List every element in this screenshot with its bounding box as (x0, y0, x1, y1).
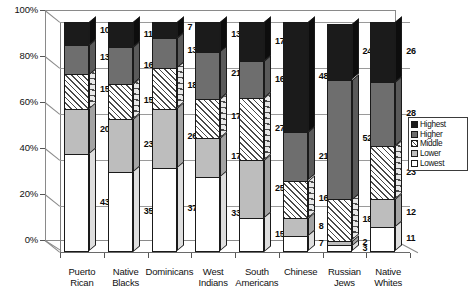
bar-column[interactable] (370, 22, 395, 252)
bar-segment-side (133, 113, 140, 172)
bar-segment-side (352, 193, 359, 240)
axis-depth-connector (45, 10, 61, 23)
bar-stack (195, 22, 220, 252)
bar-segment-side (220, 132, 227, 177)
bar-segment-middle[interactable] (239, 98, 264, 160)
x-axis-tick (366, 253, 367, 258)
bar-segment-middle[interactable] (327, 199, 352, 240)
x-axis-tick (235, 253, 236, 258)
y-axis-label: 20% (4, 188, 38, 199)
bar-column[interactable] (239, 22, 264, 252)
legend-item-highest[interactable]: Highest (411, 120, 465, 130)
bar-segment-lower[interactable] (195, 138, 220, 177)
bar-segment-middle[interactable] (64, 74, 89, 108)
bar-stack (152, 22, 177, 252)
bar-segment-lowest[interactable] (195, 177, 220, 252)
bar-segment-higher[interactable] (64, 45, 89, 75)
legend-item-label: Lowest (420, 159, 444, 168)
bar-segment-side (264, 92, 271, 160)
legend-item-label: Middle (420, 139, 442, 148)
chart-legend: HighestHigherMiddleLowerLowest (408, 117, 468, 171)
bar-segment-side (264, 211, 271, 251)
bar-column[interactable] (64, 22, 89, 252)
bar-segment-higher[interactable] (283, 132, 308, 180)
bar-segment-lowest[interactable] (327, 245, 352, 252)
bar-value-label: 26 (406, 46, 416, 56)
legend-swatch-icon (411, 150, 418, 157)
bar-segment-highest[interactable] (152, 22, 177, 38)
bar-segment-lowest[interactable] (108, 172, 133, 253)
bar-segment-side (220, 16, 227, 52)
y-axis-tick (40, 56, 45, 57)
bar-stack (283, 22, 308, 252)
bar-segment-side (352, 74, 359, 199)
bar-value-label: 12 (406, 207, 416, 217)
bar-segment-higher[interactable] (239, 61, 264, 98)
bar-stack (64, 22, 89, 252)
bar-segment-side (352, 18, 359, 79)
plot-frame-top-back (45, 10, 395, 11)
bar-segment-lowest[interactable] (370, 227, 395, 252)
bar-segment-highest[interactable] (64, 22, 89, 45)
bar-segment-higher[interactable] (195, 52, 220, 100)
x-axis-tick (323, 253, 324, 258)
bar-segment-side (89, 68, 96, 108)
bar-segment-lower[interactable] (108, 119, 133, 172)
bar-segment-side (308, 127, 315, 181)
bar-segment-side (264, 16, 271, 61)
bar-segment-highest[interactable] (327, 24, 352, 79)
bar-segment-highest[interactable] (195, 22, 220, 52)
bar-segment-highest[interactable] (108, 22, 133, 47)
y-axis-tick (40, 194, 45, 195)
bar-segment-higher[interactable] (370, 82, 395, 146)
bar-segment-lowest[interactable] (239, 218, 264, 253)
legend-item-lower[interactable]: Lower (411, 149, 465, 159)
bar-segment-side (264, 154, 271, 217)
bar-segment-lowest[interactable] (64, 154, 89, 252)
legend-swatch-icon (411, 121, 418, 128)
plot-frame-left-back (45, 10, 46, 240)
bar-column[interactable] (195, 22, 220, 252)
bar-segment-highest[interactable] (370, 22, 395, 82)
bar-segment-lower[interactable] (370, 199, 395, 227)
y-axis-label: 80% (4, 50, 38, 61)
y-axis-tick (40, 10, 45, 11)
y-axis-tick (40, 240, 45, 241)
bar-column[interactable] (152, 22, 177, 252)
bar-segment-lower[interactable] (327, 241, 352, 246)
bar-segment-side (177, 102, 184, 168)
bar-segment-higher[interactable] (108, 47, 133, 84)
y-axis-label: 100% (4, 4, 38, 15)
bar-column[interactable] (108, 22, 133, 252)
bar-stack (370, 22, 395, 252)
bar-segment-lowest[interactable] (152, 168, 177, 252)
legend-swatch-icon (411, 140, 418, 147)
bar-segment-middle[interactable] (195, 99, 220, 138)
legend-item-lowest[interactable]: Lowest (411, 158, 465, 168)
bar-segment-lower[interactable] (239, 160, 264, 218)
bar-segment-side (395, 16, 402, 82)
bar-segment-side (133, 41, 140, 84)
bar-column[interactable] (327, 22, 352, 252)
bar-segment-middle[interactable] (108, 84, 133, 119)
legend-item-label: Higher (420, 130, 442, 139)
bar-segment-middle[interactable] (152, 68, 177, 109)
bar-segment-lower[interactable] (283, 218, 308, 236)
legend-item-middle[interactable]: Middle (411, 139, 465, 149)
bar-segment-middle[interactable] (283, 181, 308, 218)
bar-segment-side (220, 93, 227, 138)
bar-segment-lower[interactable] (152, 109, 177, 168)
bar-segment-side (220, 45, 227, 99)
bar-column[interactable] (283, 22, 308, 252)
bar-segment-middle[interactable] (370, 146, 395, 199)
legend-item-higher[interactable]: Higher (411, 130, 465, 140)
bar-segment-lower[interactable] (64, 109, 89, 155)
bar-segment-lowest[interactable] (283, 236, 308, 252)
bar-segment-higher[interactable] (152, 38, 177, 68)
bar-segment-highest[interactable] (283, 22, 308, 132)
bar-segment-higher[interactable] (327, 80, 352, 200)
bar-segment-highest[interactable] (239, 22, 264, 61)
legend-item-label: Highest (420, 120, 446, 129)
y-axis-label: 0% (4, 234, 38, 245)
bar-segment-side (133, 78, 140, 118)
